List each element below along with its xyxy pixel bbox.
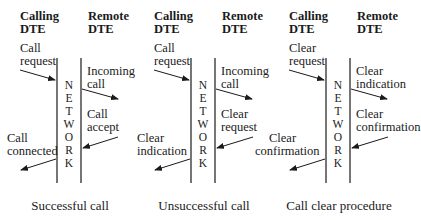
- header-line: DTE: [88, 23, 129, 36]
- label-clear-indication: Clear indication: [356, 65, 406, 91]
- network-letter: R: [196, 144, 210, 157]
- label-line: connected: [7, 145, 58, 158]
- label-line: request: [221, 121, 257, 134]
- network-letter: T: [62, 105, 76, 118]
- panel-unsuccessful-call: Calling DTE Remote DTE Call request Inco…: [134, 0, 274, 220]
- network-letter: O: [331, 131, 345, 144]
- label-line: request: [289, 55, 325, 68]
- panel-call-clear-procedure: Calling DTE Remote DTE Clear request Cle…: [269, 0, 409, 220]
- label-line: accept: [87, 121, 119, 134]
- label-call-connected: Call connected: [7, 132, 58, 158]
- network-letter: N: [62, 79, 76, 92]
- label-clear-request: Clear request: [221, 108, 257, 134]
- label-line: call: [221, 78, 269, 91]
- label-line: confirmation: [255, 145, 320, 158]
- label-line: request: [154, 55, 190, 68]
- remote-dte-header: Remote DTE: [88, 10, 129, 36]
- network-label: N E T W O R K: [196, 79, 210, 170]
- header-line: DTE: [20, 23, 59, 36]
- network-label: N E T W O R K: [331, 79, 345, 170]
- network-letter: W: [196, 118, 210, 131]
- network-letter: K: [62, 157, 76, 170]
- remote-dte-header: Remote DTE: [222, 10, 263, 36]
- label-line: confirmation: [356, 121, 421, 134]
- network-label: N E T W O R K: [62, 79, 76, 170]
- network-letter: R: [62, 144, 76, 157]
- remote-dte-header: Remote DTE: [357, 10, 398, 36]
- panel-successful-call: Calling DTE Remote DTE Call request Inco…: [0, 0, 140, 220]
- network-letter: K: [331, 157, 345, 170]
- label-line: indication: [137, 145, 187, 158]
- calling-dte-header: Calling DTE: [20, 10, 59, 36]
- label-clear-request: Clear request: [289, 42, 325, 68]
- network-letter: N: [196, 79, 210, 92]
- caption-call-clear-procedure: Call clear procedure: [269, 198, 409, 214]
- caption-successful-call: Successful call: [0, 198, 140, 214]
- label-call-request: Call request: [154, 42, 190, 68]
- network-letter: O: [62, 131, 76, 144]
- network-letter: E: [62, 92, 76, 105]
- calling-dte-header: Calling DTE: [289, 10, 328, 36]
- network-letter: E: [196, 92, 210, 105]
- label-call-accept: Call accept: [87, 108, 119, 134]
- network-letter: O: [196, 131, 210, 144]
- network-letter: R: [331, 144, 345, 157]
- network-letter: N: [331, 79, 345, 92]
- label-incoming-call: Incoming call: [87, 65, 135, 91]
- label-incoming-call: Incoming call: [221, 65, 269, 91]
- network-letter: T: [331, 105, 345, 118]
- caption-unsuccessful-call: Unsuccessful call: [134, 198, 274, 214]
- calling-dte-header: Calling DTE: [154, 10, 193, 36]
- label-call-request: Call request: [20, 42, 56, 68]
- label-line: indication: [356, 78, 406, 91]
- label-clear-confirmation-calling: Clear confirmation: [255, 132, 320, 158]
- header-line: DTE: [154, 23, 193, 36]
- label-clear-confirmation-remote: Clear confirmation: [356, 108, 421, 134]
- header-line: DTE: [222, 23, 263, 36]
- label-line: request: [20, 55, 56, 68]
- network-letter: K: [196, 157, 210, 170]
- header-line: DTE: [289, 23, 328, 36]
- label-clear-indication: Clear indication: [137, 132, 187, 158]
- header-line: DTE: [357, 23, 398, 36]
- label-line: call: [87, 78, 135, 91]
- network-letter: W: [331, 118, 345, 131]
- network-letter: E: [331, 92, 345, 105]
- network-letter: W: [62, 118, 76, 131]
- network-letter: T: [196, 105, 210, 118]
